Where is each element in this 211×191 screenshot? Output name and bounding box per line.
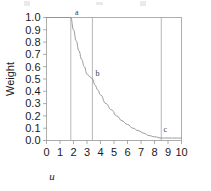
vertical-reference-lines	[71, 18, 161, 141]
x-axis-ticks	[47, 141, 182, 145]
point-annotations: abc	[75, 8, 167, 135]
x-tick-label: 8	[151, 146, 157, 158]
figure-container: 012345678910 0.00.10.20.30.40.50.60.70.8…	[0, 0, 211, 191]
x-tick-label: 9	[165, 146, 171, 158]
x-tick-label: 4	[97, 146, 103, 158]
y-tick-label: 0.2	[25, 110, 40, 122]
point-label-a: a	[75, 8, 79, 17]
y-tick-label: 0.8	[25, 36, 40, 48]
y-tick-label: 0.3	[25, 97, 40, 109]
y-tick-label: 0.4	[25, 85, 40, 97]
x-tick-label: 3	[84, 146, 90, 158]
y-tick-label: 0.7	[25, 48, 40, 60]
x-tick-label: 1	[57, 146, 63, 158]
x-tick-label: 6	[124, 146, 130, 158]
y-tick-label: 0.0	[25, 134, 40, 146]
x-tick-label: 2	[70, 146, 76, 158]
point-label-b: b	[95, 69, 99, 78]
weight-decay-chart: 012345678910 0.00.10.20.30.40.50.60.70.8…	[0, 0, 211, 191]
y-tick-label: 0.5	[25, 73, 40, 85]
y-axis-ticks	[43, 18, 47, 141]
y-axis-tick-labels: 0.00.10.20.30.40.50.60.70.80.91.0	[25, 11, 40, 146]
y-axis-title: Weight	[4, 62, 16, 96]
x-tick-label: 7	[138, 146, 144, 158]
point-label-c: c	[163, 125, 167, 134]
x-axis-tick-labels: 012345678910	[43, 146, 187, 158]
x-tick-label: 5	[111, 146, 117, 158]
y-tick-label: 0.6	[25, 61, 40, 73]
x-tick-label: 10	[175, 146, 187, 158]
x-axis-title: u	[49, 170, 55, 182]
y-tick-label: 1.0	[25, 11, 40, 23]
x-tick-label: 0	[43, 146, 49, 158]
y-tick-label: 0.9	[25, 24, 40, 36]
y-tick-label: 0.1	[25, 122, 40, 134]
